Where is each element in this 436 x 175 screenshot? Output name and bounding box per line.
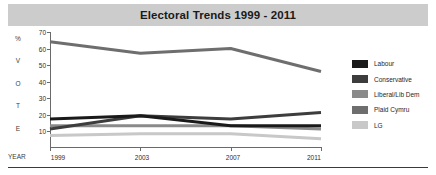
y-axis-caption: % V O T E — [10, 36, 26, 132]
y-axis-tick-label: 50 — [39, 62, 46, 69]
legend-item: LG — [352, 118, 432, 133]
x-axis-tick-label: 2003 — [135, 154, 149, 161]
legend-swatch-labour — [352, 60, 368, 68]
x-axis-tick-label: 2007 — [226, 154, 240, 161]
legend-item: Labour — [352, 56, 432, 71]
legend-label: LG — [374, 122, 383, 129]
y-axis-caption-char: E — [16, 126, 20, 133]
legend-item: Conservative — [352, 71, 432, 86]
x-axis-caption: YEAR — [8, 153, 26, 160]
chart-legend: Labour Conservative Liberal/Lib Dem Plai… — [352, 56, 432, 133]
y-axis-tick-label: 60 — [39, 45, 46, 52]
series-line — [50, 134, 321, 139]
legend-label: Conservative — [374, 76, 412, 83]
chart-figure: Electoral Trends 1999 - 2011 % V O T E Y… — [0, 0, 436, 175]
y-axis-tick-label: 20 — [39, 111, 46, 118]
x-axis-tick-label: 2011 — [307, 154, 321, 161]
y-axis-caption-char: % — [15, 36, 21, 43]
footer-divider — [8, 167, 428, 168]
y-axis-caption-char: O — [15, 81, 20, 88]
page-title: Electoral Trends 1999 - 2011 — [140, 9, 296, 21]
legend-label: Labour — [374, 60, 394, 67]
y-axis-tick-label: 40 — [39, 78, 46, 85]
legend-label: Plaid Cymru — [374, 106, 409, 113]
plot-area: 70 60 50 40 30 20 10 1999 2003 2007 2011 — [50, 32, 322, 148]
y-axis-caption-char: V — [16, 58, 20, 65]
series-lines — [50, 32, 322, 148]
chart-title-band: Electoral Trends 1999 - 2011 — [8, 4, 428, 26]
legend-swatch-plaid-cymru — [352, 106, 368, 114]
legend-item: Plaid Cymru — [352, 102, 432, 117]
y-axis-tick-label: 10 — [39, 128, 46, 135]
legend-item: Liberal/Lib Dem — [352, 87, 432, 102]
series-line — [50, 42, 321, 72]
x-axis-tick-label: 1999 — [51, 154, 65, 161]
legend-label: Liberal/Lib Dem — [374, 91, 420, 98]
legend-swatch-lg — [352, 121, 368, 129]
legend-swatch-conservative — [352, 75, 368, 83]
y-axis-tick-label: 30 — [39, 95, 46, 102]
y-axis-caption-char: T — [16, 103, 20, 110]
legend-swatch-liberal-lib-dem — [352, 90, 368, 98]
y-axis-tick-label: 70 — [39, 29, 46, 36]
